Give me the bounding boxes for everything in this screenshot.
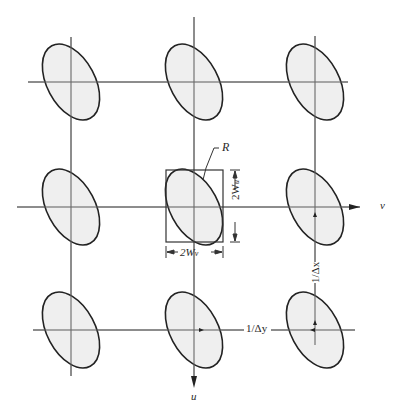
spacing-y-label: 1/Δy	[246, 322, 267, 334]
width-dimension-label: 2Wv	[180, 246, 198, 258]
region-leader-line	[203, 148, 219, 180]
lattice-diagram	[0, 0, 399, 409]
height-dimension-label: 2Wu	[229, 180, 241, 200]
ellipses	[31, 35, 356, 378]
v-axis-arrow-icon	[349, 204, 360, 210]
region-label: R	[222, 140, 229, 155]
u-axis-arrow-icon	[191, 376, 197, 388]
u-axis-label: u	[191, 390, 197, 402]
v-axis-label: v	[380, 199, 385, 211]
spacing-x-label: 1/Δx	[309, 262, 321, 283]
